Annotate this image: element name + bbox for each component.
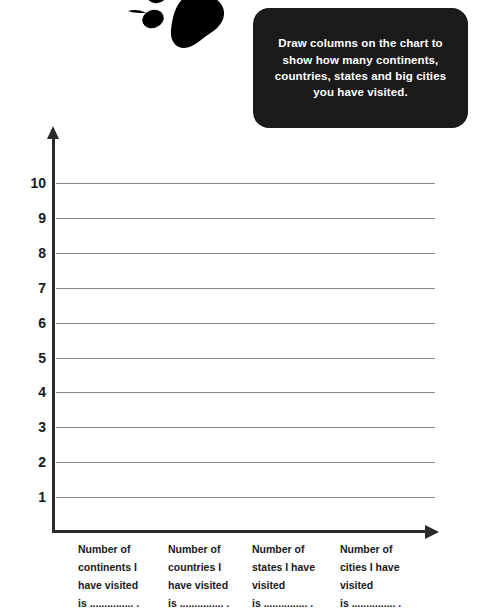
category-label-line: Number of	[168, 540, 252, 558]
category-label-1: Number ofcountries Ihave visitedis .....…	[168, 540, 252, 611]
category-label-line: have visited	[168, 576, 252, 594]
gridline-9	[56, 218, 435, 219]
y-axis-tick-labels: 10987654321	[14, 0, 46, 611]
y-axis-arrow-icon	[47, 126, 59, 139]
gridline-6	[56, 323, 435, 324]
category-label-line: visited	[252, 576, 336, 594]
category-label-line: states I have	[252, 558, 336, 576]
x-axis-category-labels: Number ofcontinents Ihave visitedis ....…	[78, 540, 478, 611]
gridline-2	[56, 462, 435, 463]
y-tick-label-2: 2	[18, 455, 46, 469]
y-tick-label-4: 4	[18, 385, 46, 399]
category-label-line: Number of	[252, 540, 336, 558]
y-tick-label-1: 1	[18, 490, 46, 504]
category-label-line: countries I	[168, 558, 252, 576]
category-label-line: is ............... .	[252, 594, 336, 611]
gridline-5	[56, 358, 435, 359]
category-label-line: is ............... .	[168, 594, 252, 611]
category-label-line: is ............... .	[340, 594, 424, 611]
gridline-10	[56, 183, 435, 184]
y-tick-label-8: 8	[18, 246, 46, 260]
gridline-1	[56, 497, 435, 498]
category-label-line: visited	[340, 576, 424, 594]
y-axis-line	[52, 135, 55, 533]
category-label-3: Number ofcities I havevisitedis ........…	[340, 540, 424, 611]
category-label-line: Number of	[340, 540, 424, 558]
category-label-0: Number ofcontinents Ihave visitedis ....…	[78, 540, 162, 611]
y-tick-label-3: 3	[18, 420, 46, 434]
category-label-line: continents I	[78, 558, 162, 576]
x-axis-arrow-icon	[425, 525, 439, 539]
y-tick-label-7: 7	[18, 281, 46, 295]
category-label-line: is ............... .	[78, 594, 162, 611]
category-label-line: cities I have	[340, 558, 424, 576]
category-label-line: have visited	[78, 576, 162, 594]
gridline-4	[56, 392, 435, 393]
gridline-3	[56, 427, 435, 428]
gridline-8	[56, 253, 435, 254]
gridline-7	[56, 288, 435, 289]
y-tick-label-10: 10	[18, 176, 46, 190]
x-axis-line	[52, 530, 430, 533]
y-tick-label-6: 6	[18, 316, 46, 330]
y-tick-label-5: 5	[18, 351, 46, 365]
category-label-line: Number of	[78, 540, 162, 558]
y-tick-label-9: 9	[18, 211, 46, 225]
category-label-2: Number ofstates I havevisitedis ........…	[252, 540, 336, 611]
bar-chart-worksheet[interactable]: 10987654321 Number ofcontinents Ihave vi…	[0, 0, 491, 611]
